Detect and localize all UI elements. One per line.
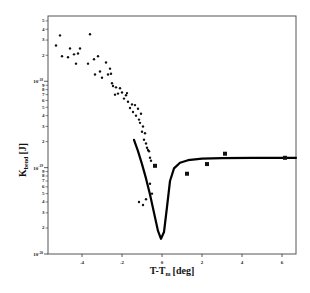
- data-point-dot: [97, 55, 99, 57]
- data-point-dot: [105, 61, 107, 63]
- data-point-dot: [129, 107, 131, 109]
- data-point-dot: [140, 113, 142, 115]
- data-point-dot: [123, 97, 125, 99]
- data-point-dot: [55, 44, 57, 46]
- data-point-dot: [61, 55, 63, 57]
- data-point-dot: [148, 150, 150, 152]
- data-point-dot: [107, 73, 109, 75]
- data-point-dot: [144, 132, 146, 134]
- data-point-square: [153, 164, 157, 168]
- data-point-dot: [59, 34, 61, 36]
- data-point-dot: [93, 58, 95, 60]
- data-point-dot: [139, 122, 141, 124]
- data-point-dot: [114, 93, 116, 95]
- data-point-dot: [112, 85, 114, 87]
- data-point-dot: [127, 101, 129, 103]
- data-point-dot: [134, 104, 136, 106]
- data-point-dot: [111, 82, 113, 84]
- data-point-dot: [149, 157, 151, 159]
- data-point-dot: [146, 147, 148, 149]
- data-point-square: [205, 162, 209, 166]
- data-point-dot: [75, 62, 77, 64]
- data-point-dot: [143, 139, 145, 141]
- data-point-dot: [87, 62, 89, 64]
- data-point-dot: [131, 103, 133, 105]
- data-point-square: [283, 156, 287, 160]
- data-point-dot: [151, 192, 153, 194]
- data-point-dot: [145, 142, 147, 144]
- data-point-dot: [141, 131, 143, 133]
- data-point-dot: [77, 52, 79, 54]
- data-point-dot: [117, 92, 119, 94]
- data-point-dot: [101, 77, 103, 79]
- data-point-dot: [149, 183, 151, 185]
- data-point-dot: [79, 47, 81, 49]
- data-point-dot: [89, 33, 91, 35]
- data-point-dot: [125, 94, 127, 96]
- data-point-square: [223, 152, 227, 156]
- data-point-dot: [69, 47, 71, 49]
- data-point-dot: [119, 87, 121, 89]
- data-point-dot: [73, 53, 75, 55]
- x-tick-label: -2: [120, 260, 125, 265]
- data-point-dot: [135, 114, 137, 116]
- chart: -4-20246 10-202345678910-192345678910-18…: [0, 0, 310, 293]
- data-point-dot: [138, 201, 140, 203]
- x-axis-title: T-Tm[deg]: [150, 265, 194, 277]
- data-point-dot: [137, 108, 139, 110]
- data-point-dot: [115, 86, 117, 88]
- data-point-dot: [142, 125, 144, 127]
- x-tick-label: -4: [80, 260, 85, 265]
- data-point-dot: [145, 198, 147, 200]
- data-point-dot: [150, 160, 152, 162]
- data-point-dot: [142, 204, 144, 206]
- data-point-dot: [109, 67, 111, 69]
- data-point-dot: [94, 73, 96, 75]
- data-point-dot: [99, 70, 101, 72]
- data-point-dot: [67, 56, 69, 58]
- data-point-dot: [138, 118, 140, 120]
- data-point-dot: [132, 111, 134, 113]
- data-point-dot: [126, 92, 128, 94]
- data-point-square: [185, 172, 189, 176]
- data-point-dot: [110, 73, 112, 75]
- data-point-dot: [121, 91, 123, 93]
